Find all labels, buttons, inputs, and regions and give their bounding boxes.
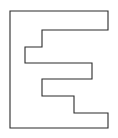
letter-e-svg: Block letter E outline bbox=[0, 0, 118, 138]
figure-canvas: Block letter E outline bbox=[0, 0, 118, 138]
letter-e-outline-shape bbox=[10, 11, 108, 128]
